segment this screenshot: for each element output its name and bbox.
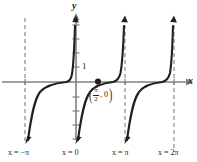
x-axis-label: x — [188, 76, 193, 86]
plot-area — [0, 0, 197, 162]
point-label-close-paren: ) — [109, 87, 112, 103]
point-label-comma-zero: , 0 — [100, 91, 108, 99]
point-label-fraction: π 2 — [93, 87, 99, 103]
point-label-open-paren: ( — [89, 87, 92, 103]
y-axis-label: y — [72, 1, 76, 11]
y-tick-label-one: 1 — [82, 62, 87, 71]
marked-point-label: ( π 2 , 0 ) — [88, 87, 113, 103]
curve-branch-2 — [75, 16, 128, 145]
point-label-numerator: π — [93, 87, 99, 94]
asymptote-label-pi: x = π — [112, 149, 129, 157]
curve-branch-3 — [124, 16, 177, 145]
asymptote-label-zero: x = 0 — [62, 149, 79, 157]
curve-branch-1 — [25, 16, 79, 145]
tangent-function-figure: y x 1 ( π 2 , 0 ) x = −π x = 0 x = π x =… — [0, 0, 197, 162]
asymptote-label-two-pi: x = 2π — [158, 149, 179, 157]
point-label-denominator: 2 — [93, 95, 99, 103]
asymptote-label-minus-pi: x = −π — [8, 149, 29, 157]
marked-point-dot — [95, 78, 101, 84]
y-axis — [73, 13, 80, 140]
